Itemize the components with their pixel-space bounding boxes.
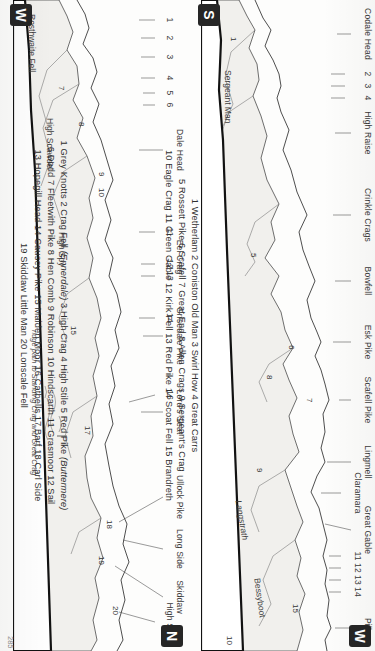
peak-label: Lingmell: [363, 445, 373, 478]
compass-badge-s: S: [198, 4, 220, 26]
book-page: Codale Head 2 3 4 High Raise Crinkle Cra…: [0, 0, 375, 651]
key-line: 5 Rossett Pike 6 Scafell 7 Great End 8 A…: [175, 0, 188, 651]
profile-number: 10: [225, 636, 234, 645]
peak-label: Crinkle Crags: [363, 188, 373, 242]
leader-lines: [115, 20, 163, 622]
peak-label: High Raise: [363, 111, 373, 155]
peak-label: Esk Pike: [363, 325, 373, 360]
key-line: 6 Dodd 7 Fleetwith Pike 8 Hen Comb 9 Rob…: [44, 0, 57, 651]
profile-number: 6: [287, 345, 296, 350]
profile-number: 10: [97, 188, 106, 197]
peak-label: 3: [363, 84, 373, 89]
profile-number: 18: [105, 520, 114, 529]
key-caption-lower: 1 Grey Knotts 2 Crag Fell (Ennerdale) 3 …: [17, 0, 70, 651]
compass-badge-w-top: W: [349, 625, 371, 647]
peak-label: 14: [353, 587, 363, 597]
profile-number: 8: [265, 375, 274, 380]
profile-number: 17: [83, 426, 92, 435]
profile-number: 20: [111, 606, 120, 615]
peak-label: 12: [353, 563, 363, 573]
peak-label-row-upper: Codale Head 2 3 4 High Raise Crinkle Cra…: [353, 0, 375, 651]
peak-label: Codale Head: [363, 8, 373, 60]
peak-label: Claramara: [353, 472, 363, 513]
key-line: 10 Eagle Crag 11 Green Gable 12 Kirk Fel…: [161, 0, 174, 651]
key-line: 1 Grey Knotts 2 Crag Fell (Ennerdale) 3 …: [57, 0, 70, 651]
peak-label: Scafell Pike: [363, 377, 373, 424]
peak-label: Great Gable: [363, 506, 373, 555]
panorama-panel-upper: Codale Head 2 3 4 High Raise Crinkle Cra…: [188, 0, 375, 651]
profile-number: 9: [97, 172, 106, 177]
profile-number: 9: [255, 468, 264, 473]
peak-label: 4: [363, 96, 373, 101]
key-line: 1 Wetherlam 2 Coniston Old Man 3 Swirl H…: [188, 0, 201, 651]
key-line: 19 Skiddaw Little Man 20 Lonscale Fell: [17, 0, 30, 651]
in-profile-name: Sergeant Man: [223, 70, 233, 123]
leader-lines: [321, 34, 351, 628]
profile-number: 5: [249, 253, 258, 258]
key-caption-upper: 1 Wetherlam 2 Coniston Old Man 3 Swirl H…: [161, 0, 201, 651]
peak-label: 11: [353, 551, 363, 560]
profile-number: 7: [305, 398, 314, 403]
profile-number: 8: [77, 122, 86, 127]
peak-label: 13: [353, 575, 363, 585]
profile-number: 15: [69, 326, 78, 335]
profile-number: 15: [291, 604, 300, 613]
key-line: 13 Hopegill Head 14 Causey Pike 15 Maide…: [30, 0, 43, 651]
page-number: 285: [6, 636, 15, 649]
profile-number: 19: [97, 556, 106, 565]
peak-label: Bowfell: [363, 267, 373, 296]
peak-label: 2: [363, 72, 373, 77]
rotated-page-content: Codale Head 2 3 4 High Raise Crinkle Cra…: [0, 0, 375, 651]
profile-number: 1: [229, 37, 238, 42]
